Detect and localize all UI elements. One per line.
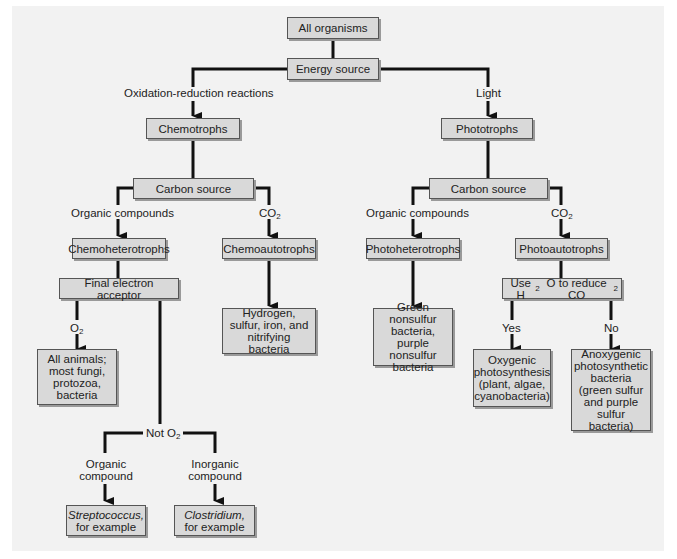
label-oxidation-reduction: Oxidation-reduction reactions <box>124 87 274 99</box>
label-no: No <box>604 322 619 334</box>
node-chemoautotrophs: Chemoautotrophs <box>222 238 316 259</box>
node-aerobic-examples: All animals; most fungi, protozoa, bacte… <box>37 349 117 405</box>
co2-right-main: CO <box>551 207 568 219</box>
node-anoxygenic-bacteria: Anoxygenic photosynthetic bacteria (gree… <box>571 349 651 431</box>
node-photoheterotroph-examples: Green nonsulfur bacteria, purple nonsulf… <box>373 308 453 366</box>
label-organic-compound: Organic compound <box>78 458 134 482</box>
node-phototrophs: Phototrophs <box>441 118 533 139</box>
node-chemoheterotrophs: Chemoheterotrophs <box>72 238 166 259</box>
streptococcus-name: Streptococcus, <box>68 509 144 521</box>
node-photoheterotrophs: Photoheterotrophs <box>366 238 460 259</box>
use-h2o-prefix: Use H <box>506 277 535 301</box>
node-oxygenic-photosynthesis: Oxygenic photosynthesis (plant, algae, c… <box>473 349 551 407</box>
clostridium-name: Clostridium, <box>184 509 245 521</box>
label-co2-left: CO2 <box>259 207 281 219</box>
node-chemoautotroph-examples: Hydrogen, sulfur, iron, and nitrifying b… <box>222 308 316 354</box>
label-yes: Yes <box>502 322 521 334</box>
label-inorganic-compound: Inorganic compound <box>185 458 245 482</box>
co2-right-sub: 2 <box>568 212 572 221</box>
not-o2-main: Not O <box>146 427 176 439</box>
node-use-h2o: Use H2O to reduce CO2 <box>502 278 622 299</box>
streptococcus-suffix: for example <box>76 521 136 533</box>
label-light: Light <box>476 87 501 99</box>
label-not-o2: Not O2 <box>144 427 183 439</box>
co2-left-main: CO <box>259 207 276 219</box>
node-energy-source: Energy source <box>287 58 379 80</box>
node-carbon-source-left: Carbon source <box>133 178 254 199</box>
node-all-organisms: All organisms <box>287 17 379 39</box>
use-h2o-mid: O to reduce CO <box>540 277 614 301</box>
not-o2-sub: 2 <box>176 432 180 441</box>
node-chemotrophs: Chemotrophs <box>146 118 240 139</box>
label-o2: O2 <box>70 322 83 334</box>
node-clostridium: Clostridium, for example <box>174 505 255 536</box>
node-final-electron-acceptor: Final electron acceptor <box>59 278 179 299</box>
o2-sub: 2 <box>79 327 83 336</box>
node-streptococcus: Streptococcus, for example <box>66 505 146 536</box>
clostridium-suffix: for example <box>184 521 244 533</box>
label-organic-compounds-right: Organic compounds <box>366 207 469 219</box>
node-photoautotrophs: Photoautotrophs <box>515 238 608 259</box>
label-co2-right: CO2 <box>551 207 573 219</box>
co2-left-sub: 2 <box>276 212 280 221</box>
o2-main: O <box>70 322 79 334</box>
node-carbon-source-right: Carbon source <box>429 178 548 199</box>
label-organic-compounds-left: Organic compounds <box>71 207 174 219</box>
